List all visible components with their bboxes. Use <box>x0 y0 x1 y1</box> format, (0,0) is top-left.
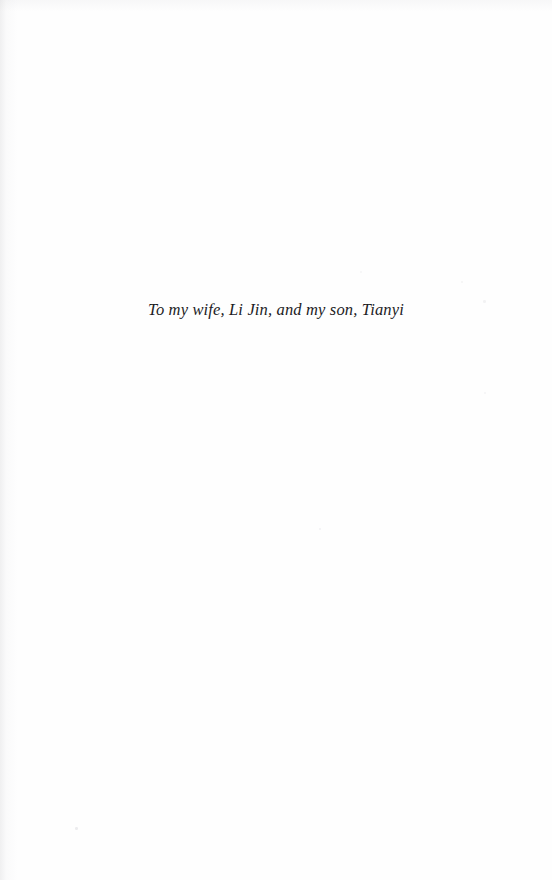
scan-gutter-shadow <box>0 0 18 880</box>
dedication-page: To my wife, Li Jin, and my son, Tianyi <box>0 0 552 880</box>
scan-speck <box>319 528 321 530</box>
scan-speck <box>75 827 78 830</box>
scan-speck <box>484 392 486 394</box>
scan-speck <box>461 281 463 283</box>
dedication-text: To my wife, Li Jin, and my son, Tianyi <box>148 299 404 321</box>
dedication-block: To my wife, Li Jin, and my son, Tianyi <box>0 299 552 321</box>
scan-speck <box>360 271 362 273</box>
scan-top-shadow <box>0 0 552 12</box>
